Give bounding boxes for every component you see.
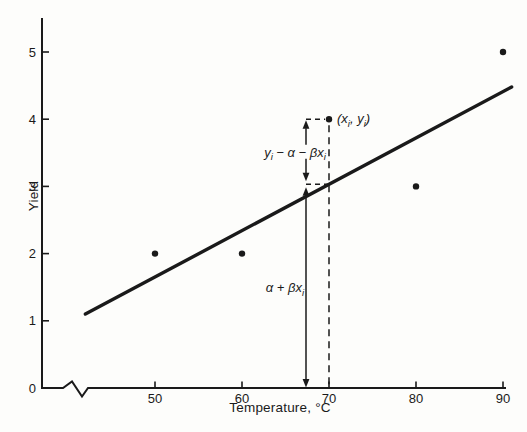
arrowhead-down-icon bbox=[303, 173, 310, 182]
y-tick-label: 2 bbox=[29, 246, 36, 261]
data-point-highlighted bbox=[326, 116, 332, 122]
point-coordinates-label: (xi, yi) bbox=[337, 111, 370, 129]
y-tick-label: 4 bbox=[29, 112, 36, 127]
x-tick-label: 50 bbox=[148, 391, 162, 406]
scatter-plot-figure: 0123455060708090(xi, yi)yi − α − βxiα + … bbox=[0, 0, 527, 432]
chart-layer: 0123455060708090(xi, yi)yi − α − βxiα + … bbox=[29, 18, 512, 406]
y-tick-label: 5 bbox=[29, 45, 36, 60]
data-point bbox=[413, 183, 419, 189]
data-point bbox=[152, 250, 158, 256]
x-axis-line-with-break bbox=[42, 382, 506, 397]
x-tick-label: 80 bbox=[409, 391, 423, 406]
residual-label: yi − α − βxi bbox=[263, 145, 327, 163]
y-tick-label: 1 bbox=[29, 313, 36, 328]
chart-canvas: 0123455060708090(xi, yi)yi − α − βxiα + … bbox=[0, 0, 527, 432]
y-tick-label: 0 bbox=[29, 381, 36, 396]
x-axis-title: Temperature, °C bbox=[229, 400, 330, 415]
arrowhead-down-icon bbox=[303, 379, 310, 388]
arrowhead-up-icon bbox=[303, 120, 310, 129]
fitted-value-label: α + βxi bbox=[266, 280, 305, 298]
data-point bbox=[239, 250, 245, 256]
x-tick-label: 90 bbox=[496, 391, 510, 406]
y-axis-title: Yield bbox=[26, 181, 41, 212]
data-point bbox=[500, 49, 506, 55]
